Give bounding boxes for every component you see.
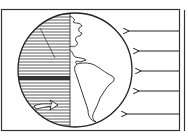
earth-sunlight-diagram — [0, 0, 188, 136]
rotation-arrow-icon — [34, 100, 58, 110]
continents — [70, 16, 114, 122]
sunlight-arrows — [126, 31, 179, 114]
central-america — [70, 50, 86, 64]
diagram-frame — [2, 10, 180, 131]
south-america — [75, 63, 115, 122]
north-america — [70, 16, 82, 47]
